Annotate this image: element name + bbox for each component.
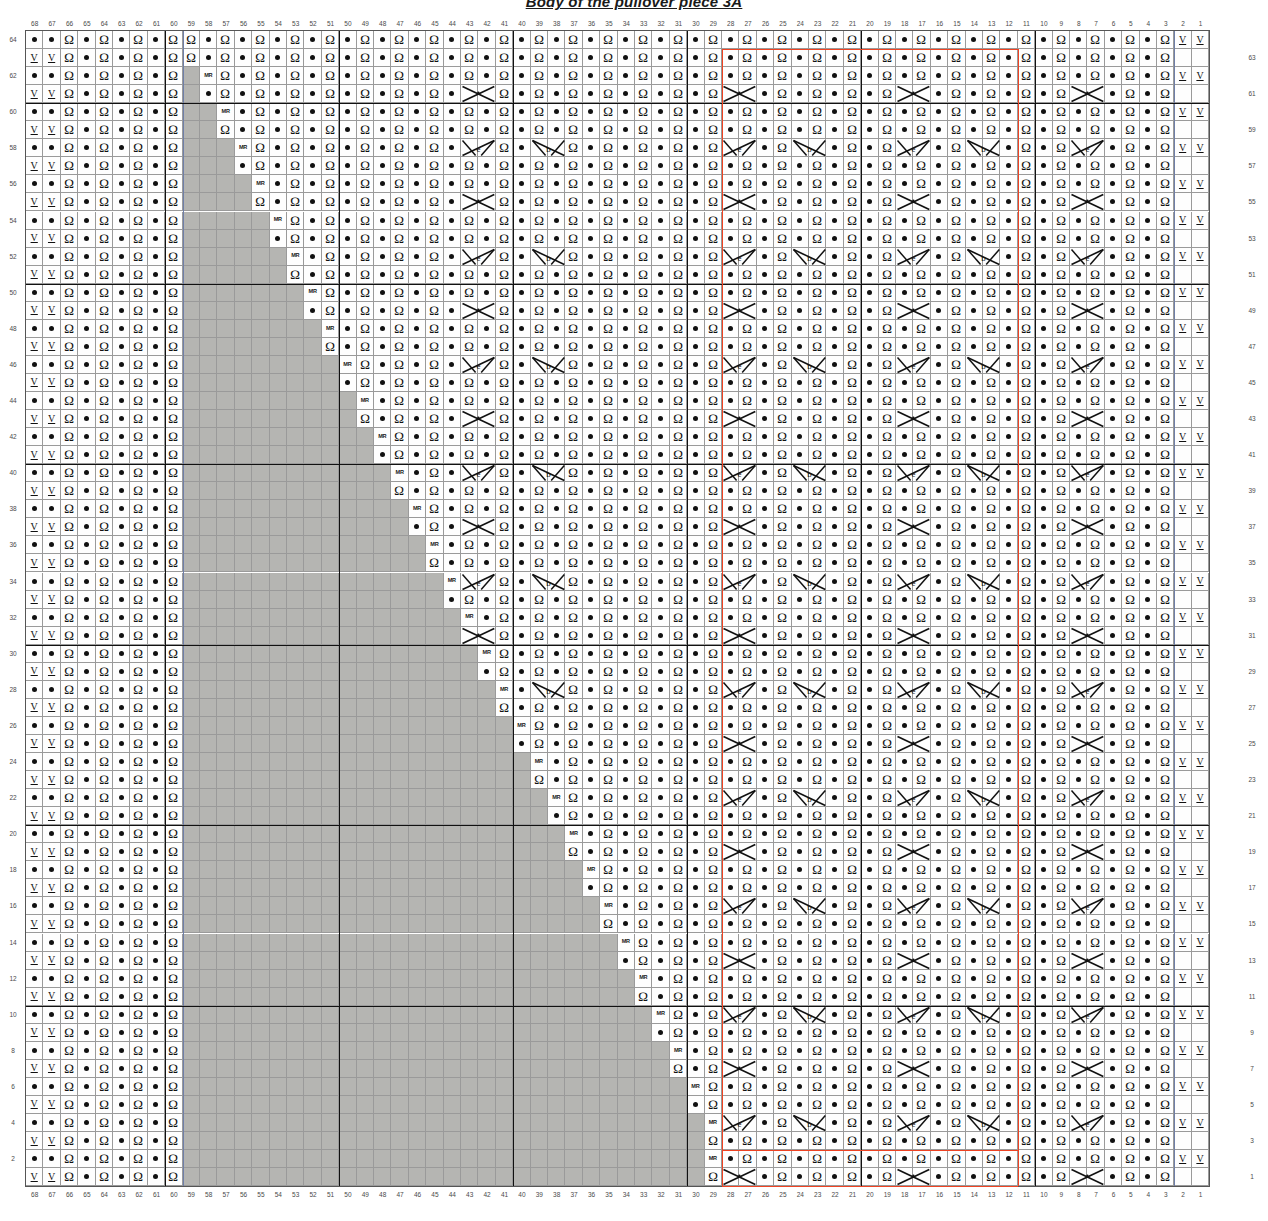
chart-cell <box>339 302 356 320</box>
chart-cell: Ω <box>1122 1060 1139 1078</box>
symbol-twisted-knit-q: Ω <box>844 1132 861 1149</box>
symbol-purl-dot <box>444 157 460 174</box>
symbol-purl-dot <box>1035 1060 1051 1077</box>
cell-no-stitch <box>287 897 304 915</box>
symbol-purl-dot <box>548 410 564 427</box>
chart-cell: V <box>26 302 43 320</box>
symbol-twisted-knit-q: Ω <box>1087 446 1104 463</box>
symbol-purl-dot <box>548 627 564 644</box>
chart-cell <box>826 410 843 428</box>
chart-cell: Ω <box>844 157 861 175</box>
symbol-purl-dot <box>148 446 164 463</box>
chart-cell <box>1070 934 1087 952</box>
chart-cell <box>966 338 983 356</box>
symbol-twisted-knit-q: Ω <box>774 861 791 878</box>
chart-cell <box>896 879 913 897</box>
symbol-twisted-knit-q: Ω <box>426 175 443 192</box>
chart-cell <box>548 645 565 663</box>
chart-cell <box>409 230 426 248</box>
chart-cell <box>687 67 704 85</box>
chart-cell <box>304 212 321 230</box>
symbol-purl-dot <box>548 103 564 120</box>
chart-cell: Ω <box>948 1006 965 1024</box>
symbol-purl-dot <box>1070 175 1086 192</box>
symbol-purl-dot <box>722 1132 738 1149</box>
cell-no-stitch <box>270 500 287 518</box>
symbol-purl-dot <box>931 500 947 517</box>
chart-cell <box>722 157 739 175</box>
symbol-twisted-knit-q: Ω <box>165 952 182 969</box>
chart-cell: Ω <box>1087 121 1104 139</box>
symbol-purl-dot <box>652 627 668 644</box>
chart-cell <box>792 681 809 699</box>
chart-cell <box>374 338 391 356</box>
cell-no-stitch <box>357 1114 374 1132</box>
cell-no-stitch <box>200 428 217 446</box>
symbol-purl-dot <box>861 1114 877 1131</box>
chart-cell <box>757 320 774 338</box>
chart-cell: Ω <box>844 1078 861 1096</box>
chart-cell: Ω <box>705 193 722 211</box>
chart-cell <box>896 320 913 338</box>
symbol-purl-dot <box>618 482 634 499</box>
chart-cell: Ω <box>705 103 722 121</box>
chart-cell: Ω <box>96 356 113 374</box>
symbol-twisted-knit-q: Ω <box>809 915 826 932</box>
row-number: 46 <box>1 360 25 369</box>
cell-no-stitch <box>235 1132 252 1150</box>
cell-no-stitch <box>357 717 374 735</box>
cell-no-stitch <box>531 1006 548 1024</box>
symbol-purl-dot <box>583 717 599 734</box>
cell-no-stitch <box>235 320 252 338</box>
chart-cell: V <box>43 988 60 1006</box>
cell-no-stitch <box>252 446 269 464</box>
chart-cell: Ω <box>809 85 826 103</box>
symbol-purl-dot <box>966 554 982 571</box>
chart-cell: MR <box>652 1006 669 1024</box>
symbol-twisted-knit-q: Ω <box>61 31 78 48</box>
symbol-twisted-knit-q: Ω <box>1122 175 1139 192</box>
symbol-twisted-knit-q: Ω <box>1018 663 1035 680</box>
chart-cell: Ω <box>913 500 930 518</box>
symbol-twisted-knit-q: Ω <box>600 825 617 842</box>
symbol-twisted-knit-q: Ω <box>879 879 896 896</box>
symbol-twisted-knit-q: Ω <box>635 374 652 391</box>
chart-cell: Ω <box>61 356 78 374</box>
chart-cell: V <box>26 699 43 717</box>
symbol-slip-v: V <box>1192 392 1208 409</box>
chart-cell <box>409 320 426 338</box>
chart-cell: Ω <box>774 681 791 699</box>
symbol-purl-dot <box>896 1096 912 1113</box>
symbol-purl-dot <box>826 843 842 860</box>
column-number: 31 <box>670 1189 687 1201</box>
symbol-twisted-knit-q: Ω <box>1018 609 1035 626</box>
symbol-purl-dot <box>1105 121 1121 138</box>
symbol-twisted-knit-q: Ω <box>809 1024 826 1041</box>
symbol-purl-dot <box>618 85 634 102</box>
chart-grid[interactable]: ΩΩΩΩΩΩΩΩΩΩΩΩΩΩΩΩΩΩΩΩΩΩΩΩΩΩΩΩΩΩΩΩΩVVVVΩΩΩ… <box>26 31 1209 1186</box>
chart-cell: Ω <box>565 338 582 356</box>
symbol-twisted-knit-q: Ω <box>879 320 896 337</box>
symbol-twisted-knit-q: Ω <box>844 952 861 969</box>
cell-no-stitch <box>304 536 321 554</box>
symbol-twisted-knit-q: Ω <box>913 1096 930 1113</box>
symbol-twisted-knit-q: Ω <box>600 446 617 463</box>
symbol-purl-dot <box>1000 500 1016 517</box>
chart-cell: Ω <box>844 356 861 374</box>
symbol-twisted-knit-q: Ω <box>739 1078 756 1095</box>
symbol-purl-dot <box>1035 1114 1051 1131</box>
symbol-twisted-knit-q: Ω <box>739 284 756 301</box>
symbol-twisted-knit-q: Ω <box>1157 482 1174 499</box>
chart-cell: Ω <box>1122 139 1139 157</box>
chart-cell: Ω <box>61 627 78 645</box>
symbol-twisted-knit-q: Ω <box>461 374 478 391</box>
symbol-purl-dot <box>1105 356 1121 373</box>
chart-cell: Ω <box>531 230 548 248</box>
cell-no-stitch <box>583 1006 600 1024</box>
symbol-twisted-knit-q: Ω <box>948 31 965 48</box>
symbol-purl-dot <box>722 1150 738 1167</box>
chart-cell <box>896 807 913 825</box>
chart-cell: Ω <box>391 266 408 284</box>
symbol-purl-dot <box>374 31 390 48</box>
chart-cell <box>931 446 948 464</box>
